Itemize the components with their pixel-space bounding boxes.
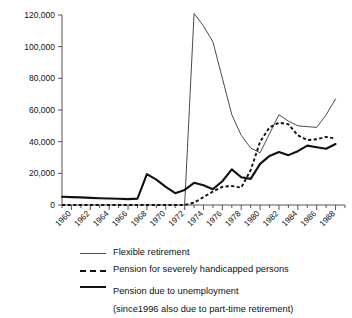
x-tick-label: 1970	[148, 209, 168, 229]
x-tick-label: 1968	[129, 209, 149, 229]
chart-series-line	[62, 144, 336, 199]
x-tick-label: 1972	[167, 209, 187, 229]
x-tick-label: 1984	[280, 209, 300, 229]
chart-plot-area: 020,00040,00060,00080,000100,000120,0001…	[0, 0, 352, 245]
legend-item-label: Pension due to unemployment	[113, 286, 239, 296]
legend-item-sublabel: (since1996 also due to part-time retirem…	[113, 304, 293, 314]
x-tick-label: 1980	[242, 209, 262, 229]
x-tick-label: 1986	[299, 209, 319, 229]
legend-item-text-group: Pension due to unemployment (since1996 a…	[113, 280, 293, 316]
chart-series-line	[185, 13, 336, 205]
dashed-line-icon	[80, 264, 106, 276]
x-tick-label: 1988	[318, 209, 338, 229]
y-tick-label: 40,000	[29, 137, 55, 147]
y-tick-label: 80,000	[29, 73, 55, 83]
y-tick-label: 0	[50, 200, 55, 210]
x-tick-label: 1962	[72, 209, 92, 229]
thin-solid-line-icon	[80, 247, 106, 259]
legend-item: Pension for severely handicapped persons	[80, 264, 348, 276]
legend-item-label: Flexible retirement	[113, 247, 189, 259]
x-tick-label: 1960	[54, 209, 74, 229]
x-tick-label: 1974	[186, 209, 206, 229]
y-tick-label: 60,000	[29, 105, 55, 115]
legend-item: Pension due to unemployment (since1996 a…	[80, 280, 348, 316]
x-tick-label: 1966	[110, 209, 130, 229]
chart-series-line	[62, 123, 336, 205]
x-tick-label: 1982	[261, 209, 281, 229]
x-tick-label: 1964	[91, 209, 111, 229]
thick-solid-line-icon	[80, 280, 106, 292]
y-tick-label: 20,000	[29, 168, 55, 178]
legend-item-label: Pension for severely handicapped persons	[113, 264, 289, 276]
x-tick-label: 1978	[223, 209, 243, 229]
y-tick-label: 100,000	[24, 42, 55, 52]
y-tick-label: 120,000	[24, 10, 55, 20]
x-tick-label: 1976	[205, 209, 225, 229]
chart-legend: Flexible retirement Pension for severely…	[80, 247, 348, 318]
legend-item: Flexible retirement	[80, 247, 348, 259]
